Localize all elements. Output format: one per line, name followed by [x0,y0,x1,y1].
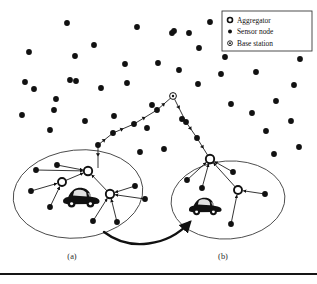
sensor-node-icon [137,149,143,155]
sensor-node-icon [124,80,130,86]
sensor-node-icon [22,79,28,85]
sensor-node-icon [122,61,128,67]
sensor-node-icon [228,101,234,107]
aggregator-icon [228,18,233,23]
sensor-node-icon [155,60,161,66]
sensor-node-icon [186,30,192,36]
sensor-node-icon [207,19,213,25]
relay-node-icon [110,130,116,136]
sensor-node-icon [273,98,279,104]
sensor-node-icon [253,69,259,75]
sensor-node-icon [249,110,255,116]
network-diagram: (a)(b) AggregatorSensor nodeBase station [0,0,317,284]
sensor-node-icon [176,67,182,73]
legend-label-1: Sensor node [237,27,274,36]
sensor-node-icon [82,118,88,124]
sensor-node-icon [296,144,302,150]
sensor-node-icon [271,151,277,157]
sensor-node-icon [288,118,294,124]
sensor-node-icon [64,20,70,26]
sensor-node-icon [171,28,177,34]
sensor-node-icon [149,102,155,108]
sensor-node-icon [26,49,32,55]
sensor-node-icon [228,30,232,34]
sensor-node-icon [161,146,167,152]
sensor-node-icon [144,125,150,131]
sensor-node-icon [297,56,303,62]
panel-label-a: (a) [67,252,77,261]
relay-node-icon [154,107,160,113]
sensor-node-icon [222,54,228,60]
sensor-node-icon [31,86,37,92]
sensor-node-icon [111,113,117,119]
relay-node-icon [131,121,137,127]
relay-node-icon [194,135,200,141]
sensor-node-icon [19,112,25,118]
figure-root: (a)(b) AggregatorSensor nodeBase station [0,0,317,284]
aggregator-a2-aggregator-icon [58,178,66,186]
aggregator-a3-aggregator-icon [106,190,114,198]
sensor-node-icon [53,96,59,102]
relay-node-icon [183,119,189,125]
aggregator-b2-aggregator-icon [234,186,242,194]
sensor-node-icon [218,71,224,77]
sensor-node-icon [51,107,57,113]
sensor-node-icon [72,53,78,59]
legend: AggregatorSensor nodeBase station [222,11,312,51]
sensor-node-icon [134,24,140,30]
panel-label-b: (b) [218,252,228,261]
relay-node-icon [95,142,101,148]
legend-label-2: Base station [237,39,273,48]
sensor-node-icon [291,82,297,88]
sensor-node-icon [73,78,79,84]
aggregator-b1-aggregator-icon [206,155,214,163]
aggregator-a1-aggregator-icon [84,167,92,175]
sensor-node-icon [196,45,202,51]
sensor-node-icon [195,81,201,87]
sensor-node-icon [47,127,53,133]
base-station-icon-center [229,42,231,44]
base-station-center-dot [172,95,174,97]
sensor-node-icon [263,128,269,134]
legend-label-0: Aggregator [237,16,271,25]
sensor-node-icon [98,85,104,91]
sensor-node-icon [67,77,73,83]
sensor-node-icon [91,42,97,48]
